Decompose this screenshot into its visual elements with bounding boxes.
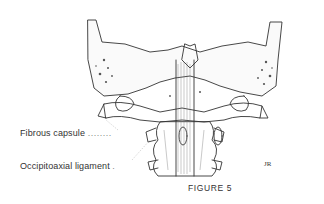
label-occipitoaxial-ligament: Occipitoaxial ligament . <box>20 161 115 171</box>
label-fibrous-capsule: Fibrous capsule ........ <box>20 128 112 138</box>
label-text: Fibrous capsule <box>20 128 85 138</box>
leader-dots: ........ <box>88 128 112 138</box>
occipital-ligament-illustration: JR <box>0 0 324 204</box>
label-text: Occipitoaxial ligament <box>20 161 110 171</box>
anatomical-figure: JR Fibrous capsule ........ Occipitoaxia… <box>0 0 324 204</box>
figure-caption: FIGURE 5 <box>188 183 232 193</box>
leader-dots: . <box>112 161 115 171</box>
artist-signature: JR <box>264 160 272 168</box>
